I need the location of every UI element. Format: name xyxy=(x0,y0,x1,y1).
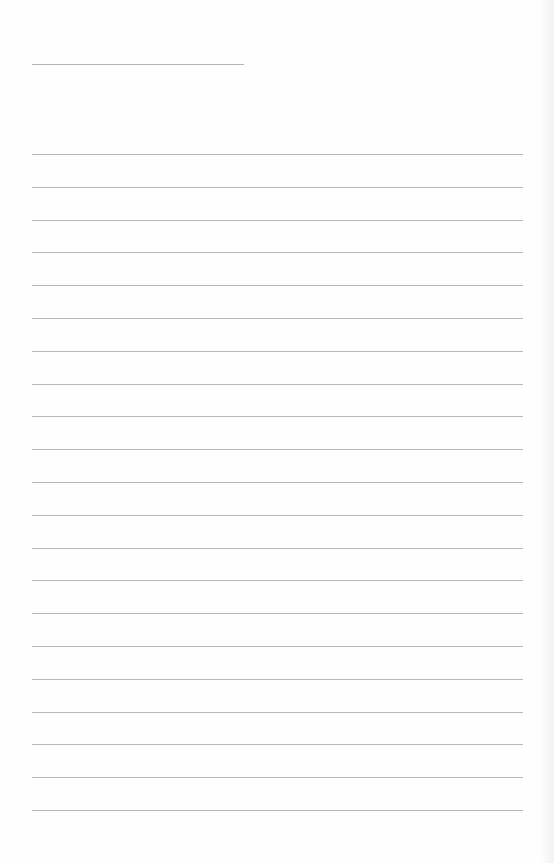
lined-paper-page xyxy=(0,0,554,863)
ruled-line xyxy=(32,646,523,647)
ruled-line xyxy=(32,744,523,745)
ruled-line xyxy=(32,154,523,155)
ruled-line xyxy=(32,515,523,516)
ruled-line xyxy=(32,384,523,385)
ruled-line xyxy=(32,351,523,352)
ruled-line xyxy=(32,318,523,319)
ruled-line xyxy=(32,810,523,811)
ruled-line xyxy=(32,777,523,778)
ruled-line xyxy=(32,220,523,221)
ruled-line xyxy=(32,416,523,417)
ruled-line xyxy=(32,613,523,614)
ruled-line xyxy=(32,482,523,483)
ruled-line xyxy=(32,712,523,713)
header-line xyxy=(32,64,244,65)
ruled-line xyxy=(32,285,523,286)
ruled-line xyxy=(32,679,523,680)
page-edge-shadow xyxy=(540,0,554,863)
ruled-line xyxy=(32,187,523,188)
ruled-line xyxy=(32,548,523,549)
ruled-line xyxy=(32,580,523,581)
ruled-line xyxy=(32,252,523,253)
ruled-line xyxy=(32,449,523,450)
